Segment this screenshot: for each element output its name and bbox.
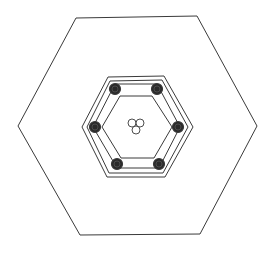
rebar-circle: [90, 122, 101, 133]
rebar-circle: [112, 159, 123, 170]
center-duct-group: [128, 119, 144, 134]
rebar-circle: [152, 84, 163, 95]
rebar-circle: [110, 84, 121, 95]
duct-circle: [132, 126, 140, 134]
diagram-canvas: [0, 0, 274, 253]
hexagonal-section-drawing: [0, 0, 274, 253]
rebar-circle: [173, 122, 184, 133]
rebar-circle: [154, 159, 165, 170]
